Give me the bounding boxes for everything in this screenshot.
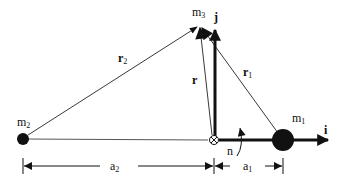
mass-m1-dot	[272, 129, 294, 151]
label-a2: a2	[110, 159, 119, 174]
vector-r1	[202, 28, 278, 133]
label-n: n	[227, 144, 233, 158]
three-body-diagram: m2 m3 m1 r2 r r1 j i n a2 a1	[0, 0, 344, 183]
vector-r2	[28, 27, 197, 135]
origin-into-page-icon	[210, 136, 219, 145]
label-m2: m2	[17, 115, 30, 130]
baseline-m2-origin	[23, 139, 208, 140]
label-i: i	[324, 123, 328, 137]
label-j: j	[213, 10, 218, 24]
rotation-n-arrow	[237, 128, 241, 156]
label-m3: m3	[192, 5, 205, 20]
label-m1: m1	[292, 111, 305, 126]
label-r2: r2	[118, 51, 127, 66]
label-r1: r1	[243, 65, 252, 80]
label-r: r	[192, 73, 198, 87]
mass-m2-dot	[17, 133, 29, 145]
label-a1: a1	[243, 159, 252, 174]
vector-r	[200, 28, 212, 135]
